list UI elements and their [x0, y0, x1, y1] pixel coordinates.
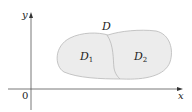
region-d-label: D	[101, 20, 111, 33]
origin-label: 0	[22, 90, 28, 101]
subregion-d2-main: D	[133, 50, 143, 63]
y-axis-arrow-icon	[29, 12, 33, 18]
x-axis-label: x	[178, 90, 184, 101]
region-d	[57, 30, 171, 79]
subregion-d1-main: D	[79, 50, 89, 63]
subregion-d1-subscript: 1	[89, 56, 93, 64]
y-axis-label: y	[21, 9, 28, 20]
diagram-canvas: y 0 x D D1 D2	[0, 0, 192, 112]
subregion-d2-subscript: 2	[143, 56, 147, 64]
